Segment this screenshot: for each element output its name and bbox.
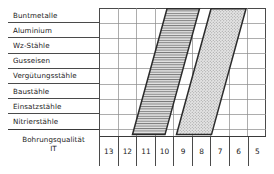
scale-value: 6 — [236, 147, 241, 156]
tolerance-bands — [100, 8, 266, 136]
scale-cell: 8 — [193, 137, 212, 166]
row-label: Gusseisen — [13, 56, 50, 65]
scale-value: 7 — [218, 147, 223, 156]
axis-title-line2: IT — [50, 145, 57, 154]
row-label: Aluminium — [13, 26, 52, 35]
scale-value: 12 — [123, 147, 132, 156]
table-row: Aluminium — [8, 23, 99, 38]
table-row: Vergütungsstähle — [8, 69, 99, 84]
scale-cell: 10 — [156, 137, 175, 166]
scale-cell: 11 — [137, 137, 156, 166]
row-label: Vergütungsstähle — [13, 71, 77, 80]
table-row: Gusseisen — [8, 54, 99, 69]
scale-value: 10 — [160, 147, 169, 156]
scale-cell: 5 — [249, 137, 267, 166]
drilling-quality-chart: Buntmetalle Aluminium Wz-Stähle Gusseise… — [8, 8, 266, 166]
scale-value: 5 — [255, 147, 260, 156]
row-label: Einsatzstähle — [13, 102, 61, 111]
scale-value: 11 — [141, 147, 150, 156]
scale-cell: 12 — [119, 137, 138, 166]
row-label: Buntmetalle — [13, 11, 57, 20]
row-label: Wz-Stähle — [13, 41, 50, 50]
scale-value: 8 — [199, 147, 204, 156]
table-row: Wz-Stähle — [8, 38, 99, 53]
table-row: Baustähle — [8, 84, 99, 99]
axis-title-cell: Bohrungsqualität IT — [8, 130, 99, 160]
scale-cell: 7 — [211, 137, 230, 166]
scale-value: 13 — [104, 147, 113, 156]
row-label: Nitrierstähle — [13, 117, 58, 126]
material-label-column: Buntmetalle Aluminium Wz-Stähle Gusseise… — [8, 8, 100, 166]
row-label: Baustähle — [13, 87, 49, 96]
scale-cell: 9 — [174, 137, 193, 166]
plot-area — [100, 8, 266, 136]
table-row: Nitrierstähle — [8, 114, 99, 129]
table-row: Buntmetalle — [8, 8, 99, 23]
scale-cell: 6 — [230, 137, 249, 166]
scale-cell: 13 — [100, 137, 119, 166]
it-grade-scale: 13 12 11 10 9 8 7 6 5 — [100, 136, 266, 166]
scale-value: 9 — [181, 147, 186, 156]
table-row: Einsatzstähle — [8, 99, 99, 114]
